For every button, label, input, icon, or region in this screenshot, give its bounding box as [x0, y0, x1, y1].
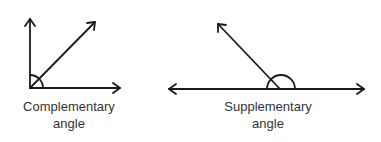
complementary-angle-figure: [25, 19, 120, 93]
label-line-2: angle: [212, 115, 324, 132]
label-line-1: Supplementary: [212, 98, 324, 115]
complementary-angle-label: Complementary angle: [14, 98, 124, 132]
label-line-2: angle: [14, 115, 124, 132]
supplementary-angle-figure: [169, 24, 364, 94]
supplementary-angle-label: Supplementary angle: [212, 98, 324, 132]
semicircle-arc-icon: [267, 75, 295, 89]
label-line-1: Complementary: [14, 98, 124, 115]
